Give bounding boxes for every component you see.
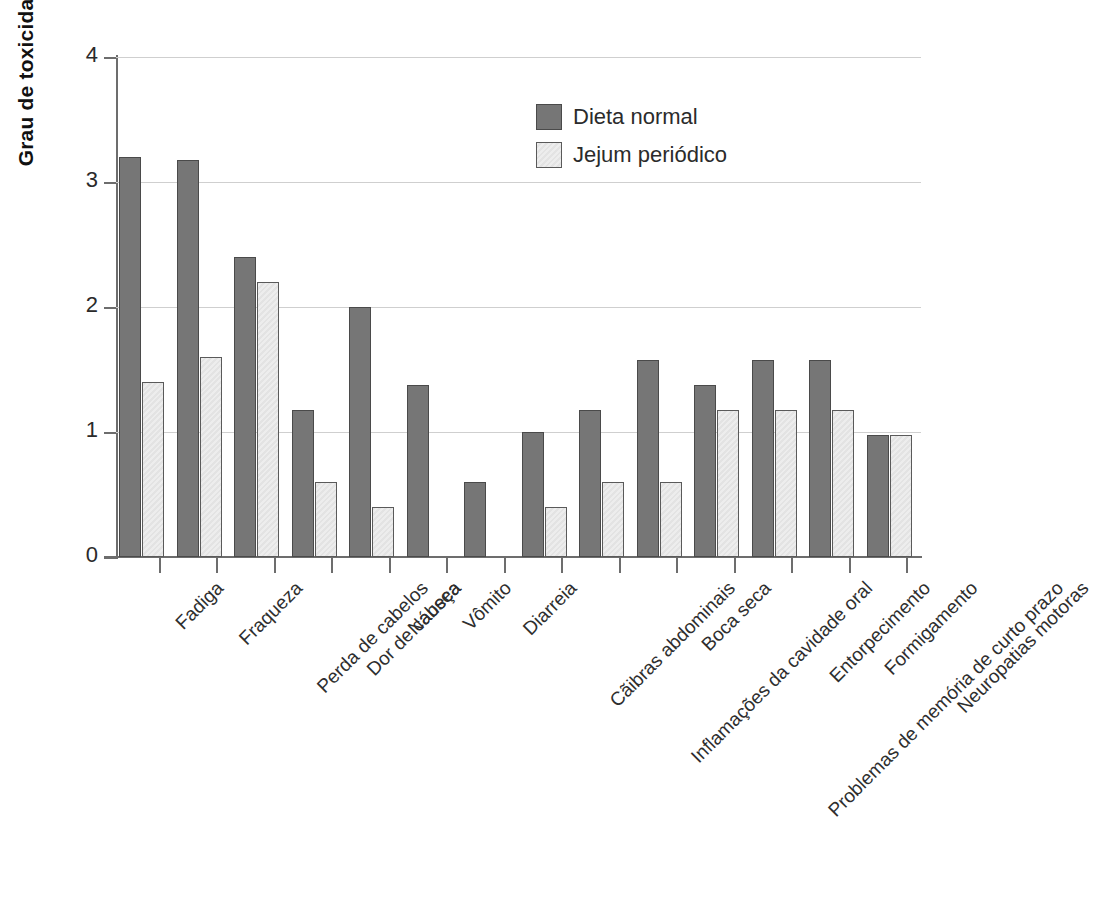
bar xyxy=(407,385,429,558)
y-tick-label-wrap: 4 xyxy=(50,44,98,66)
bar xyxy=(257,282,279,557)
y-tick-label: 4 xyxy=(58,44,98,66)
bar xyxy=(142,382,164,557)
legend-item: Jejum periódico xyxy=(536,136,727,174)
y-tick-label-wrap: 3 xyxy=(50,169,98,191)
plot-area xyxy=(116,57,921,557)
bar xyxy=(752,360,774,558)
bar xyxy=(579,410,601,558)
bar xyxy=(234,257,256,557)
y-tick-mark xyxy=(104,57,116,59)
bar xyxy=(522,432,544,557)
bar xyxy=(660,482,682,557)
x-tick-mark xyxy=(274,558,276,573)
legend-item: Dieta normal xyxy=(536,98,727,136)
x-axis-label: Diarreia xyxy=(519,578,579,638)
x-tick-mark xyxy=(906,558,908,573)
x-tick-mark xyxy=(504,558,506,573)
x-axis-label: Fadiga xyxy=(172,578,227,633)
bar xyxy=(867,435,889,558)
bar xyxy=(545,507,567,557)
bar xyxy=(315,482,337,557)
bar xyxy=(717,410,739,558)
y-tick-label: 1 xyxy=(58,419,98,441)
bar xyxy=(637,360,659,558)
bar xyxy=(349,307,371,557)
x-axis-label: Vômito xyxy=(460,578,515,633)
y-tick-label-wrap: 2 xyxy=(50,294,98,316)
legend-label: Jejum periódico xyxy=(573,142,727,168)
bar xyxy=(372,507,394,557)
gridline xyxy=(116,57,921,58)
x-tick-mark xyxy=(561,558,563,573)
y-tick-mark xyxy=(104,182,116,184)
x-tick-mark xyxy=(331,558,333,573)
y-tick-mark xyxy=(104,432,116,434)
bar xyxy=(464,482,486,557)
x-tick-mark xyxy=(849,558,851,573)
x-tick-mark xyxy=(619,558,621,573)
bar xyxy=(602,482,624,557)
bar xyxy=(177,160,199,558)
bar xyxy=(292,410,314,558)
bar xyxy=(694,385,716,558)
x-tick-mark xyxy=(734,558,736,573)
x-tick-mark xyxy=(676,558,678,573)
y-tick-mark xyxy=(104,307,116,309)
bar xyxy=(200,357,222,557)
bar xyxy=(775,410,797,558)
bar xyxy=(832,410,854,558)
x-axis-label: Fraqueza xyxy=(236,578,306,648)
bar xyxy=(119,157,141,557)
x-tick-mark xyxy=(389,558,391,573)
y-tick-mark xyxy=(104,557,116,559)
legend-swatch-jejum-periodico xyxy=(536,142,562,168)
y-tick-label: 2 xyxy=(58,294,98,316)
x-tick-mark xyxy=(216,558,218,573)
gridline xyxy=(116,182,921,183)
x-tick-mark xyxy=(159,558,161,573)
bar xyxy=(809,360,831,558)
legend-label: Dieta normal xyxy=(573,104,698,130)
x-tick-mark xyxy=(446,558,448,573)
y-tick-label: 3 xyxy=(58,169,98,191)
y-tick-label-wrap: 0 xyxy=(50,544,98,566)
bar xyxy=(890,435,912,558)
y-axis-title: Grau de toxicidade xyxy=(14,0,54,220)
y-tick-label-wrap: 1 xyxy=(50,419,98,441)
chart-legend: Dieta normalJejum periódico xyxy=(536,98,727,174)
y-tick-label: 0 xyxy=(58,544,98,566)
legend-swatch-dieta-normal xyxy=(536,104,562,130)
x-tick-mark xyxy=(791,558,793,573)
